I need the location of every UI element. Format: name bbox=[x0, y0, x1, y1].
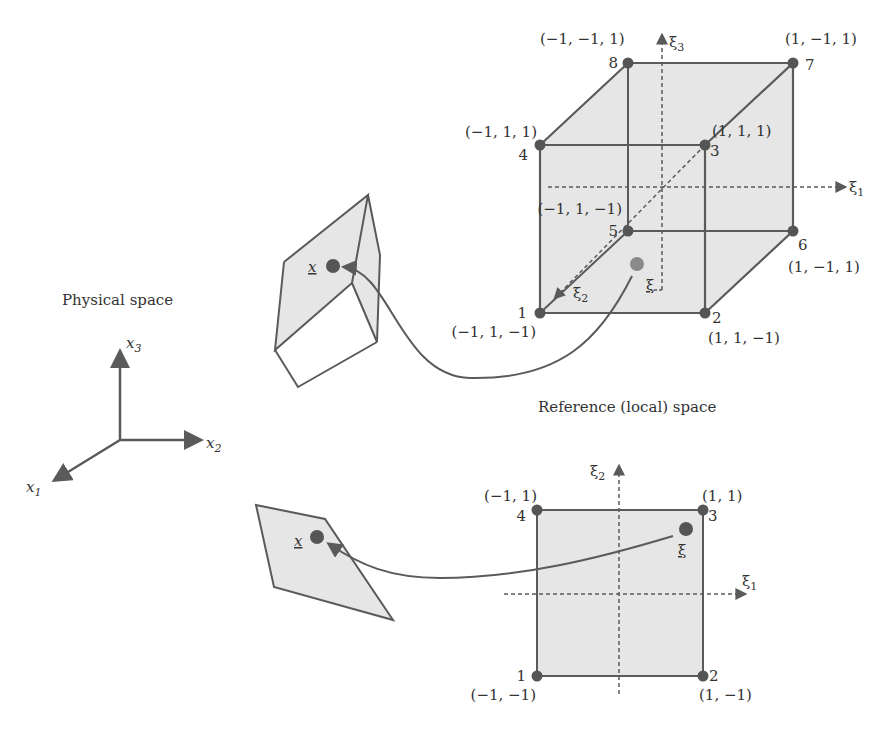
physical-hex-point-label: x bbox=[308, 258, 317, 276]
reference-hexahedron: 1 (−1, 1, −1) 2 (1, 1, −1) 3 (1, 1, 1) 4… bbox=[451, 30, 864, 347]
quad-node-3 bbox=[698, 505, 709, 516]
hex-node-4-id: 4 bbox=[518, 146, 528, 164]
quad-node-3-coords: (1, 1) bbox=[702, 487, 742, 505]
svg-text:ξ1: ξ1 bbox=[742, 572, 757, 593]
hex-reference-point bbox=[630, 257, 644, 271]
hex-node-6-id: 6 bbox=[798, 236, 808, 254]
hex-node-2-coords: (1, 1, −1) bbox=[708, 329, 780, 347]
hex-node-6 bbox=[788, 226, 799, 237]
hex-node-8 bbox=[623, 58, 634, 69]
xi2-axis-label: ξ bbox=[573, 284, 581, 302]
quad-node-4-id: 4 bbox=[516, 507, 526, 525]
quad-node-3-id: 3 bbox=[708, 507, 718, 525]
hex-node-6-coords: (1, −1, 1) bbox=[788, 258, 860, 276]
hex-node-7 bbox=[788, 58, 799, 69]
hex-node-4 bbox=[535, 140, 546, 151]
physical-space-title: Physical space bbox=[62, 291, 173, 309]
quad-reference-point bbox=[679, 522, 693, 536]
quad-node-1 bbox=[532, 671, 543, 682]
hex-node-1 bbox=[535, 308, 546, 319]
hex-node-5-id: 5 bbox=[608, 222, 618, 240]
svg-text:x2: x2 bbox=[206, 434, 221, 455]
hex-node-3-id: 3 bbox=[710, 142, 720, 160]
quad-node-1-id: 1 bbox=[516, 667, 526, 685]
hex-node-7-id: 7 bbox=[805, 56, 815, 74]
reference-space-title: Reference (local) space bbox=[538, 398, 716, 416]
svg-text:ξ3: ξ3 bbox=[669, 33, 684, 54]
quad-point-label: ξ bbox=[678, 541, 686, 559]
hex-node-1-coords: (−1, 1, −1) bbox=[451, 323, 536, 341]
svg-text:ξ1: ξ1 bbox=[849, 178, 864, 199]
x1-axis bbox=[55, 440, 120, 480]
physical-hexahedron: x bbox=[275, 195, 380, 387]
quad-node-2-id: 2 bbox=[709, 667, 719, 685]
hex-node-7-coords: (1, −1, 1) bbox=[785, 30, 857, 48]
hex-node-5 bbox=[623, 226, 634, 237]
physical-quadrilateral: x bbox=[256, 505, 393, 620]
hex-node-3-coords: (1, 1, 1) bbox=[712, 122, 771, 140]
physical-quad-point bbox=[310, 530, 324, 544]
hex-node-2-id: 2 bbox=[712, 309, 722, 327]
physical-hex-point bbox=[326, 259, 340, 273]
isoparametric-mapping-diagram: 1 (−1, 1, −1) 2 (1, 1, −1) 3 (1, 1, 1) 4… bbox=[0, 0, 891, 740]
quad-node-4-coords: (−1, 1) bbox=[484, 487, 537, 505]
xi3-axis-label: ξ bbox=[669, 33, 677, 51]
quad-node-1-coords: (−1, −1) bbox=[471, 686, 536, 704]
reference-quadrilateral: 1 (−1, −1) 2 (1, −1) 3 (1, 1) 4 (−1, 1) … bbox=[471, 462, 758, 704]
hex-point-label: ξ bbox=[646, 276, 654, 294]
hex-node-4-coords: (−1, 1, 1) bbox=[465, 123, 537, 141]
hex-node-1-id: 1 bbox=[517, 304, 527, 322]
hex-node-2 bbox=[700, 308, 711, 319]
svg-text:x3: x3 bbox=[126, 334, 141, 355]
quad-node-2 bbox=[698, 671, 709, 682]
physical-quad-point-label: x bbox=[294, 532, 303, 550]
hex-node-8-id: 8 bbox=[608, 54, 618, 72]
hex-node-5-coords: (−1, 1, −1) bbox=[537, 200, 622, 218]
svg-text:ξ2: ξ2 bbox=[590, 462, 605, 483]
xi1-axis-label: ξ bbox=[849, 178, 857, 196]
hex-node-8-coords: (−1, −1, 1) bbox=[540, 30, 625, 48]
xi2-axis-2d-label: ξ bbox=[590, 462, 598, 480]
hex-node-3 bbox=[700, 140, 711, 151]
quad-node-4 bbox=[532, 505, 543, 516]
xi1-axis-2d-label: ξ bbox=[742, 572, 750, 590]
quad-node-2-coords: (1, −1) bbox=[699, 686, 752, 704]
physical-axes: Physical space x3 x2 x1 bbox=[26, 291, 221, 499]
svg-text:x1: x1 bbox=[26, 478, 41, 499]
